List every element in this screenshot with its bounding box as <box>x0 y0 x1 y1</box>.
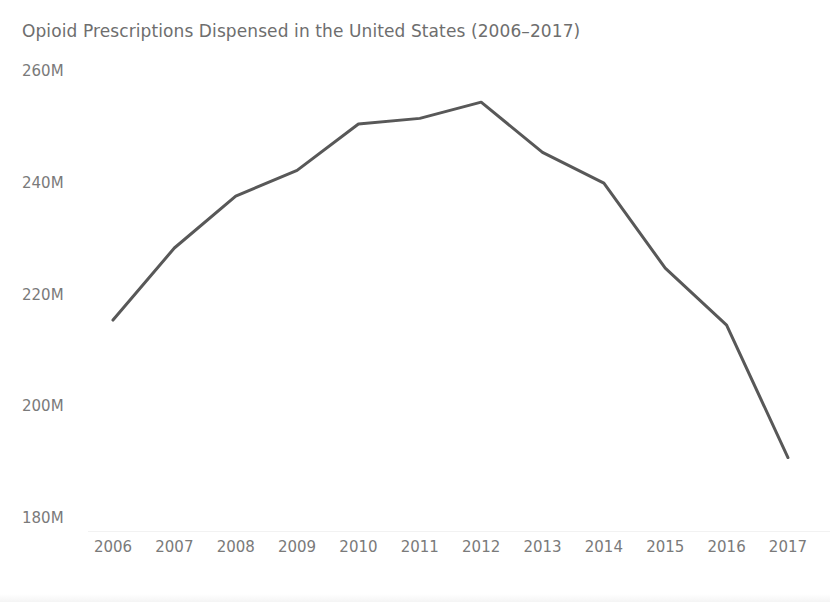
x-axis-tick-label: 2006 <box>94 538 132 556</box>
x-axis-tick-label: 2010 <box>339 538 377 556</box>
x-axis-tick-label: 2012 <box>462 538 500 556</box>
x-axis-tick-label: 2011 <box>401 538 439 556</box>
x-axis-tick-label: 2015 <box>646 538 684 556</box>
x-axis-tick-label: 2013 <box>523 538 561 556</box>
x-axis-tick-label: 2017 <box>769 538 807 556</box>
line-chart-plot <box>0 0 830 602</box>
x-axis-tick-label: 2008 <box>217 538 255 556</box>
page-edge-artifact <box>0 594 830 602</box>
x-axis-baseline <box>88 531 830 532</box>
x-axis-tick-label: 2016 <box>708 538 746 556</box>
x-axis-tick-label: 2007 <box>155 538 193 556</box>
chart-container: Opioid Prescriptions Dispensed in the Un… <box>0 0 830 602</box>
x-axis-tick-label: 2014 <box>585 538 623 556</box>
x-axis-tick-label: 2009 <box>278 538 316 556</box>
data-series-line <box>113 102 788 457</box>
